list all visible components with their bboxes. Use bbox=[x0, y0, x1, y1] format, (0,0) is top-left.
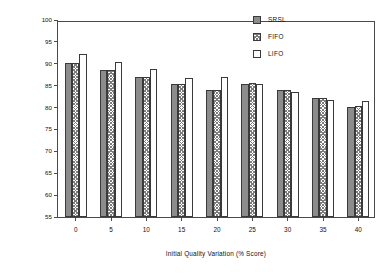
bar-srsl-25 bbox=[241, 84, 248, 217]
x-tick-label: 10 bbox=[132, 226, 160, 233]
legend-item-fifo[interactable]: FIFO bbox=[253, 28, 313, 45]
y-tick-label: 70 bbox=[31, 146, 52, 156]
y-tick-label: 65 bbox=[31, 168, 52, 178]
x-tick-mark bbox=[111, 217, 112, 221]
legend-item-srsl[interactable]: SRSL bbox=[253, 11, 313, 28]
bar-fifo-5 bbox=[107, 70, 114, 217]
bar-lifo-40 bbox=[362, 101, 369, 217]
x-tick-mark bbox=[358, 217, 359, 221]
bar-lifo-10 bbox=[150, 69, 157, 217]
bar-srsl-40 bbox=[347, 107, 354, 217]
chart-legend: SRSLFIFOLIFO bbox=[253, 11, 313, 62]
x-axis-title: Initial Quality Variation (% Score) bbox=[57, 250, 375, 257]
y-tick-label: 60 bbox=[31, 190, 52, 200]
bar-lifo-0 bbox=[79, 54, 86, 217]
x-tick-mark bbox=[287, 217, 288, 221]
x-tick-mark bbox=[217, 217, 218, 221]
bar-srsl-10 bbox=[135, 77, 142, 217]
legend-label: LIFO bbox=[268, 50, 283, 57]
y-tick-mark bbox=[54, 85, 58, 86]
legend-item-lifo[interactable]: LIFO bbox=[253, 45, 313, 62]
y-tick-label: 80 bbox=[31, 103, 52, 113]
bar-srsl-30 bbox=[277, 90, 284, 217]
y-tick-label: 95 bbox=[31, 37, 52, 47]
x-tick-mark bbox=[146, 217, 147, 221]
legend-swatch-icon bbox=[253, 16, 261, 24]
x-tick-label: 30 bbox=[274, 226, 302, 233]
y-tick-mark bbox=[54, 173, 58, 174]
bar-srsl-5 bbox=[100, 70, 107, 217]
y-tick-mark bbox=[54, 107, 58, 108]
bar-srsl-20 bbox=[206, 90, 213, 217]
x-tick-label: 20 bbox=[203, 226, 231, 233]
bar-fifo-25 bbox=[249, 83, 256, 217]
bar-fifo-20 bbox=[213, 90, 220, 217]
bar-lifo-30 bbox=[291, 92, 298, 217]
x-tick-label: 5 bbox=[97, 226, 125, 233]
bar-lifo-20 bbox=[221, 77, 228, 217]
x-tick-mark bbox=[75, 217, 76, 221]
x-tick-mark bbox=[323, 217, 324, 221]
x-tick-label: 25 bbox=[238, 226, 266, 233]
legend-label: SRSL bbox=[268, 16, 286, 23]
bar-fifo-15 bbox=[178, 84, 185, 217]
y-tick-mark bbox=[54, 217, 58, 218]
bar-fifo-30 bbox=[284, 90, 291, 217]
bar-lifo-25 bbox=[256, 84, 263, 217]
bar-lifo-5 bbox=[115, 62, 122, 217]
y-tick-label: 85 bbox=[31, 81, 52, 91]
x-tick-label: 40 bbox=[344, 226, 372, 233]
y-tick-mark bbox=[54, 195, 58, 196]
bar-fifo-35 bbox=[319, 98, 326, 217]
y-tick-mark bbox=[54, 63, 58, 64]
x-tick-label: 35 bbox=[309, 226, 337, 233]
x-tick-label: 0 bbox=[62, 226, 90, 233]
bar-fifo-0 bbox=[72, 63, 79, 217]
x-tick-mark bbox=[252, 217, 253, 221]
y-tick-mark bbox=[54, 151, 58, 152]
bar-fifo-40 bbox=[355, 106, 362, 217]
y-tick-label: 75 bbox=[31, 124, 52, 134]
y-tick-label: 100 bbox=[31, 15, 52, 25]
bar-srsl-35 bbox=[312, 98, 319, 217]
legend-swatch-icon bbox=[253, 33, 261, 41]
y-tick-mark bbox=[54, 41, 58, 42]
legend-label: FIFO bbox=[268, 33, 284, 40]
y-tick-mark bbox=[54, 20, 58, 21]
bar-chart: Average Quality at Issue (Score) 5560657… bbox=[0, 0, 392, 275]
y-tick-mark bbox=[54, 129, 58, 130]
legend-swatch-icon bbox=[253, 50, 261, 58]
bar-lifo-35 bbox=[327, 100, 334, 217]
x-tick-mark bbox=[181, 217, 182, 221]
bar-fifo-10 bbox=[143, 77, 150, 217]
plot-area: 556065707580859095100 0510152025303540 bbox=[57, 21, 375, 218]
bar-srsl-0 bbox=[65, 63, 72, 217]
bar-lifo-15 bbox=[185, 78, 192, 217]
y-tick-label: 90 bbox=[31, 59, 52, 69]
y-tick-label: 55 bbox=[31, 212, 52, 222]
bar-srsl-15 bbox=[171, 84, 178, 217]
x-tick-label: 15 bbox=[168, 226, 196, 233]
